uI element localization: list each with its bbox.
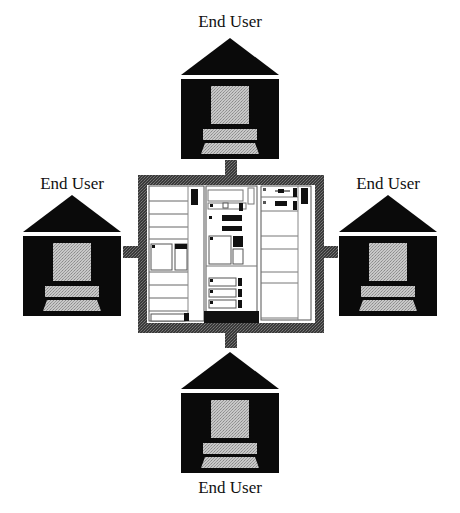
cabinet-middle [204, 186, 259, 323]
link-right [322, 246, 338, 258]
link-bottom [225, 332, 237, 348]
end-user-left-house-icon [23, 195, 121, 316]
cabinet-right [261, 186, 311, 320]
end-user-top-house-icon [181, 38, 279, 159]
link-left [123, 246, 139, 258]
cabinet-left [149, 186, 204, 321]
end-user-right-label: End User [339, 174, 437, 194]
link-top [225, 160, 237, 176]
mainframe-computer [138, 175, 324, 333]
end-user-bottom-label: End User [181, 478, 279, 498]
end-user-right-house-icon [339, 195, 437, 316]
end-user-top-label: End User [181, 12, 279, 32]
end-user-bottom-house-icon [181, 352, 279, 473]
end-user-left-label: End User [23, 174, 121, 194]
